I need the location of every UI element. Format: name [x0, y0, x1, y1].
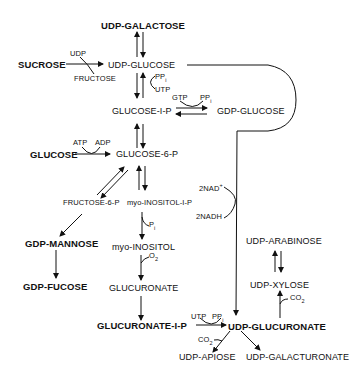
node-myo-inositol: myo-INOSITOL [112, 242, 175, 252]
node-udp-galactose: UDP-GALACTOSE [101, 20, 185, 31]
cofactor-nad: 2NAD+ [199, 182, 223, 193]
cofactor-co2-apiose: CO2 [198, 335, 213, 346]
node-glucose: GLUCOSE [30, 149, 78, 160]
cofactor-gtp: GTP [172, 93, 188, 102]
cofactor-ppi-3: PPi [212, 312, 224, 323]
cofactor-adp: ADP [95, 138, 111, 147]
node-udp-xylose: UDP-XYLOSE [250, 280, 309, 290]
node-udp-apiose: UDP-APIOSE [179, 352, 236, 362]
node-fructose-6-p: FRUCTOSE-6-P [63, 198, 119, 207]
cofactor-atp: ATP [73, 138, 87, 147]
node-udp-galacturonate: UDP-GALACTURONATE [246, 352, 349, 362]
cofactor-udp: UDP [70, 49, 86, 58]
cofactor-ppi-1: PPi [155, 72, 167, 83]
cofactor-pi: Pi [149, 220, 155, 231]
node-udp-arabinose: UDP-ARABINOSE [246, 236, 322, 246]
node-glucose-6-p: GLUCOSE-6-P [116, 149, 178, 159]
node-sucrose: SUCROSE [18, 59, 66, 70]
node-udp-glucose: UDP-GLUCOSE [108, 60, 175, 70]
cofactor-utp-1: UTP [155, 85, 170, 94]
cofactor-nadh: 2NADH [196, 212, 222, 221]
cofactor-fructose: FRUCTOSE [74, 74, 116, 83]
node-gdp-mannose: GDP-MANNOSE [25, 238, 98, 249]
node-gdp-glucose: GDP-GLUCOSE [217, 106, 285, 116]
cofactor-ppi-2: PPi [200, 93, 212, 104]
cofactor-o2: O2 [149, 251, 158, 262]
node-glucose-1-p: GLUCOSE-I-P [112, 106, 172, 116]
node-glucuronate: GLUCURONATE [109, 283, 178, 293]
cofactor-co2-xylose: CO2 [290, 293, 305, 304]
cofactor-utp-2: UTP [191, 312, 206, 321]
node-glucuronate-1-p: GLUCURONATE-I-P [97, 320, 187, 331]
node-udp-glucuronate: UDP-GLUCURONATE [228, 321, 326, 332]
node-myo-inositol-1-p: myo-INOSITOL-I-P [127, 198, 192, 207]
node-gdp-fucose: GDP-FUCOSE [23, 281, 87, 292]
